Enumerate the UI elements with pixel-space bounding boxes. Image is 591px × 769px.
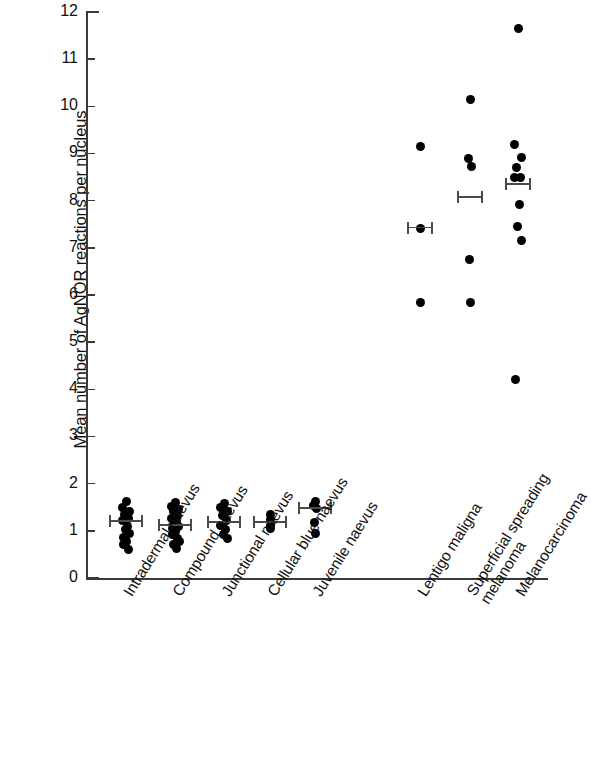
- y-axis-tick-label: 12: [48, 2, 78, 20]
- mean-error-bar: [505, 183, 531, 184]
- y-axis-tick-label: 3: [48, 426, 78, 444]
- mean-error-bar: [457, 196, 483, 197]
- y-axis-tick-label: 8: [48, 191, 78, 209]
- error-cap-left: [505, 178, 507, 190]
- data-point: [467, 162, 476, 171]
- y-axis-tick-label: 1: [48, 521, 78, 539]
- error-cap-right: [285, 516, 287, 528]
- y-axis-tick: [86, 483, 95, 485]
- data-point: [416, 142, 425, 151]
- mean-line: [109, 520, 143, 522]
- y-axis-tick: [86, 436, 95, 438]
- y-axis-tick-label: 6: [48, 285, 78, 303]
- mean-line: [407, 227, 433, 229]
- error-cap-left: [109, 515, 111, 527]
- error-cap-right: [239, 516, 241, 528]
- y-axis-tick-label: 9: [48, 143, 78, 161]
- data-point: [466, 298, 475, 307]
- y-axis-tick: [86, 153, 95, 155]
- y-axis-tick-label: 10: [48, 96, 78, 114]
- data-point: [510, 140, 519, 149]
- y-axis-tick: [86, 11, 99, 13]
- mean-line: [505, 183, 531, 185]
- data-point: [517, 153, 526, 162]
- y-axis-tick: [86, 200, 95, 202]
- data-point: [513, 222, 522, 231]
- data-point: [416, 298, 425, 307]
- data-point: [514, 24, 523, 33]
- error-cap-right: [141, 515, 143, 527]
- y-axis-tick-label: 5: [48, 332, 78, 350]
- y-axis-tick: [86, 341, 95, 343]
- data-point: [517, 236, 526, 245]
- data-point: [172, 544, 181, 553]
- mean-error-bar: [407, 227, 433, 228]
- y-axis-tick: [86, 294, 95, 296]
- y-axis-tick-label: 7: [48, 238, 78, 256]
- y-axis-tick: [86, 577, 99, 579]
- y-axis-tick-label: 2: [48, 474, 78, 492]
- data-point: [465, 255, 474, 264]
- y-axis-tick: [86, 106, 95, 108]
- error-cap-left: [298, 502, 300, 514]
- data-point: [510, 173, 519, 182]
- error-cap-left: [407, 222, 409, 234]
- error-cap-left: [253, 516, 255, 528]
- mean-error-bar: [109, 520, 143, 521]
- error-cap-right: [529, 178, 531, 190]
- y-axis-tick-label: 4: [48, 379, 78, 397]
- error-cap-left: [457, 191, 459, 203]
- error-cap-right: [431, 222, 433, 234]
- error-cap-right: [481, 191, 483, 203]
- y-axis-tick-label: 11: [48, 49, 78, 67]
- error-cap-right: [190, 519, 192, 531]
- mean-line: [457, 196, 483, 198]
- data-point: [515, 200, 524, 209]
- data-point: [124, 545, 133, 554]
- data-point: [512, 163, 521, 172]
- y-axis-tick: [86, 389, 95, 391]
- y-axis-tick: [86, 58, 95, 60]
- data-point: [511, 375, 520, 384]
- y-axis-tick: [86, 247, 95, 249]
- y-axis-tick: [86, 530, 95, 532]
- data-point: [466, 95, 475, 104]
- y-axis-tick-label: 0: [48, 568, 78, 586]
